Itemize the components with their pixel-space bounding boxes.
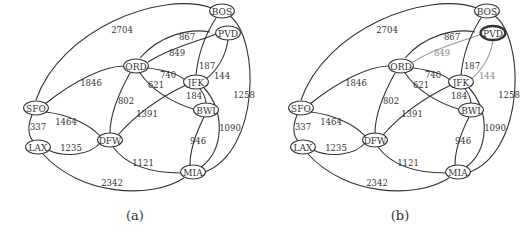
node-jfk: JFK (184, 75, 209, 89)
node-bwi: BWI (459, 103, 484, 117)
edge-weight-label: 1090 (484, 123, 506, 133)
node-label: BOS (212, 7, 232, 17)
edge-jfk-mia (200, 88, 219, 168)
node-label: ORD (125, 62, 146, 72)
edge-weight-label: 867 (444, 32, 460, 42)
node-bos: BOS (475, 4, 500, 18)
edge-weight-label: 184 (451, 91, 467, 101)
edge-weight-label: 2704 (111, 25, 133, 35)
edge-weight-label: 1464 (55, 117, 77, 127)
edge-weight-label: 1846 (345, 78, 367, 88)
edge-weight-label: 740 (425, 70, 441, 80)
node-label: SFO (26, 104, 46, 114)
node-label: ORD (390, 62, 411, 72)
edge-weight-label: 144 (214, 71, 230, 81)
node-ord: ORD (389, 59, 414, 73)
edge-weight-label: 946 (190, 136, 206, 146)
edge-weight-label: 1464 (320, 117, 342, 127)
node-bwi: BWI (194, 103, 219, 117)
edge-weight-label: 337 (30, 122, 46, 132)
node-jfk: JFK (449, 75, 474, 89)
edge-weight-label: 1121 (132, 158, 154, 168)
edge-weight-label: 802 (383, 96, 399, 106)
edge-weight-label: 867 (179, 32, 195, 42)
edge-weight-label: 1391 (136, 109, 158, 119)
node-label: DFW (99, 136, 122, 146)
edge-weight-label: 2342 (101, 178, 123, 188)
node-lax: LAX (26, 140, 51, 154)
edge-weight-label: 1258 (233, 90, 255, 100)
node-lax: LAX (291, 140, 316, 154)
edge-weight-label: 187 (464, 61, 480, 71)
edge-weight-label: 621 (413, 80, 429, 90)
node-label: PVD (218, 29, 238, 39)
edge-jfk-mia (465, 88, 484, 168)
edge-weight-label: 946 (455, 136, 471, 146)
node-pvd: PVD (216, 26, 241, 40)
node-label: PVD (483, 29, 503, 39)
node-label: BWI (461, 106, 481, 116)
node-label: JFK (452, 78, 470, 88)
node-pvd: PVD (481, 26, 506, 40)
node-label: MIA (448, 168, 468, 178)
node-ord: ORD (124, 59, 149, 73)
edge-weight-label: 849 (434, 48, 450, 58)
node-dfw: DFW (363, 133, 388, 147)
node-sfo: SFO (289, 101, 314, 115)
edge-weight-label: 849 (169, 48, 185, 58)
node-label: MIA (183, 168, 203, 178)
node-label: DFW (364, 136, 387, 146)
edge-weight-label: 1258 (498, 90, 520, 100)
edge-weight-label: 1235 (325, 143, 347, 153)
graph-diagram: 2704867849187144740621184184680213911258… (0, 0, 532, 235)
node-dfw: DFW (98, 133, 123, 147)
edge-weight-label: 184 (186, 91, 202, 101)
panel-caption: (b) (391, 208, 409, 223)
edge-weight-label: 144 (479, 71, 495, 81)
node-bos: BOS (210, 4, 235, 18)
edge-weight-label: 1121 (397, 158, 419, 168)
panel-b: 2704867849187144740621184184680213911258… (289, 4, 520, 223)
node-label: BOS (477, 7, 497, 17)
edge-weight-label: 337 (295, 122, 311, 132)
node-label: LAX (29, 143, 48, 153)
edge-weight-label: 1090 (219, 123, 241, 133)
node-sfo: SFO (24, 101, 49, 115)
node-mia: MIA (181, 165, 206, 179)
edge-weight-label: 2704 (376, 25, 398, 35)
node-mia: MIA (446, 165, 471, 179)
edge-weight-label: 802 (118, 96, 134, 106)
edge-weight-label: 1846 (80, 78, 102, 88)
panel-a: 2704867849187144740621184184680213911258… (24, 4, 255, 223)
edge-weight-label: 1235 (60, 143, 82, 153)
node-label: LAX (294, 143, 313, 153)
edge-weight-label: 1391 (401, 109, 423, 119)
edge-weight-label: 621 (148, 80, 164, 90)
node-label: JFK (187, 78, 205, 88)
node-label: SFO (291, 104, 311, 114)
node-label: BWI (196, 106, 216, 116)
panel-caption: (a) (126, 208, 144, 223)
edge-weight-label: 740 (160, 70, 176, 80)
edge-weight-label: 2342 (366, 178, 388, 188)
edge-weight-label: 187 (199, 61, 215, 71)
